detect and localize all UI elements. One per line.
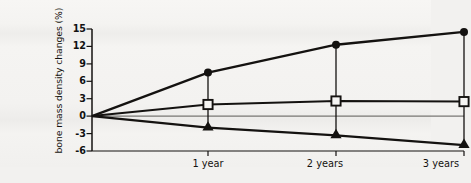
- data-point-circle-3-years: [460, 28, 468, 36]
- series-line-open-square: [92, 101, 464, 116]
- bone-mass-density-line-chart: bone mass density changes (%) 15 12 9 6 …: [40, 16, 471, 183]
- data-point-circle-1-year: [204, 69, 212, 77]
- plot-area: [40, 16, 471, 183]
- data-point-triangle-2-years: [330, 129, 341, 138]
- y-axis-ticks: [87, 29, 93, 151]
- data-point-square-1-year: [203, 100, 212, 109]
- data-point-triangle-1-year: [202, 121, 213, 130]
- data-point-triangle-3-years: [458, 139, 469, 148]
- x-axis-ticks: [208, 151, 464, 156]
- data-point-square-3-years: [459, 97, 468, 106]
- year-connector-lines: [208, 32, 464, 145]
- data-point-circle-2-years: [332, 41, 340, 49]
- series-line-filled-triangle: [92, 116, 464, 145]
- data-point-square-2-years: [331, 96, 340, 105]
